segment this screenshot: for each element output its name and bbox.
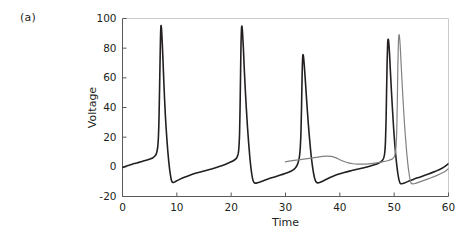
x-tick-label: 0	[119, 201, 126, 213]
y-tick-label: -20	[99, 190, 116, 202]
voltage-time-chart: 0102030405060-20020406080100TimeVoltage	[0, 0, 474, 238]
y-tick-label: 40	[103, 101, 116, 113]
x-tick-label: 50	[387, 201, 400, 213]
y-tick-label: 100	[96, 12, 116, 24]
y-tick-label: 0	[110, 160, 117, 172]
y-tick-label: 20	[103, 131, 116, 143]
series-line-neuron-2	[286, 35, 449, 184]
y-tick-label: 80	[103, 42, 116, 54]
figure-panel: (a) 0102030405060-20020406080100TimeVolt…	[0, 0, 474, 238]
x-tick-label: 40	[333, 201, 346, 213]
x-tick-label: 30	[279, 201, 292, 213]
x-tick-label: 10	[170, 201, 183, 213]
x-tick-label: 60	[442, 201, 455, 213]
x-axis-title: Time	[271, 216, 299, 229]
series-line-neuron-1	[123, 26, 449, 184]
series-group	[123, 26, 449, 184]
y-tick-label: 60	[103, 71, 116, 83]
y-axis-title: Voltage	[86, 87, 99, 128]
x-tick-label: 20	[224, 201, 237, 213]
